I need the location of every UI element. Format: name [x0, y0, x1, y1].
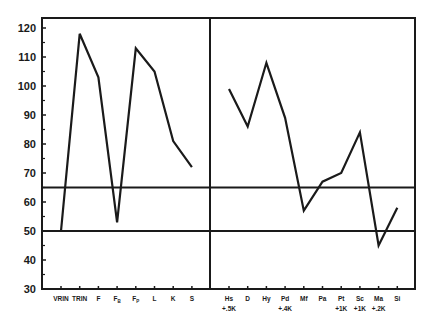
y-tick-label: 120: [18, 22, 36, 34]
y-tick-label: 110: [18, 51, 36, 63]
x-label-s: S: [190, 295, 195, 302]
x-label-pa: Pa: [319, 295, 327, 302]
y-tick-label: 70: [24, 167, 36, 179]
x-label-f: FP: [132, 295, 139, 304]
x-label-l: L: [153, 295, 157, 302]
x-label-ma: Ma: [374, 295, 383, 302]
x-label-pt: Pt: [338, 295, 345, 302]
frame-border: [42, 18, 415, 289]
y-tick-label: 100: [18, 80, 36, 92]
reference-lines: [42, 188, 415, 232]
x-sublabel: +.4K: [278, 305, 292, 312]
y-tick-label: 80: [24, 138, 36, 150]
x-sublabel: +.5K: [222, 305, 236, 312]
x-label-vrin: VRIN: [53, 295, 69, 302]
x-label-pd: Pd: [281, 295, 289, 302]
y-tick-label: 60: [24, 196, 36, 208]
y-tick-label: 90: [24, 109, 36, 121]
x-label-f: F: [96, 295, 100, 302]
x-label-hy: Hy: [262, 295, 271, 303]
x-sublabel: +1K: [354, 305, 366, 312]
clinical-series-line: [229, 63, 397, 246]
y-tick-label: 40: [24, 254, 36, 266]
mmpi-profile-chart: 30405060708090100110120 VRINTRINFFBFPLKS…: [0, 0, 436, 321]
x-sublabel: +1K: [335, 305, 347, 312]
x-label-sc: Sc: [356, 295, 364, 302]
validity-series-line: [61, 34, 192, 231]
x-label-hs: Hs: [225, 295, 234, 302]
x-label-mf: Mf: [300, 295, 308, 302]
x-label-trin: TRIN: [72, 295, 87, 302]
profile-lines: [61, 34, 397, 246]
y-tick-label: 50: [24, 225, 36, 237]
plot-frame: [42, 18, 415, 289]
x-sublabel: +.2K: [372, 305, 386, 312]
y-tick-label: 30: [24, 283, 36, 295]
x-label-f: FB: [113, 295, 121, 304]
x-label-d: D: [245, 295, 250, 302]
x-label-si: Si: [394, 295, 400, 302]
x-label-k: K: [171, 295, 176, 302]
